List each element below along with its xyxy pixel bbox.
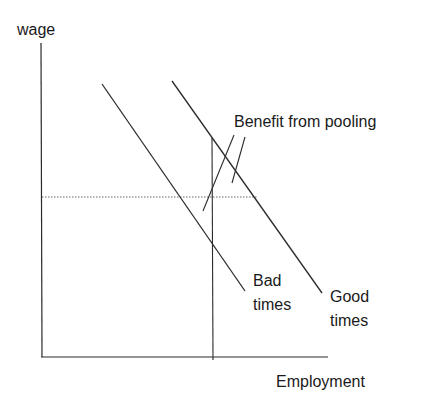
good-times-label-line1: Good (330, 287, 369, 306)
good-times-label-line2: times (330, 311, 368, 330)
bad-times-curve (102, 84, 245, 291)
bad-times-label-line1: Bad (253, 271, 281, 290)
annotation-label: Benefit from pooling (234, 112, 376, 131)
x-axis-label: Employment (276, 372, 365, 391)
diagram-canvas (0, 0, 424, 406)
bad-times-label-line2: times (253, 295, 291, 314)
employment-reference-line (212, 138, 213, 360)
y-axis-label: wage (17, 20, 55, 39)
y-axis (41, 43, 42, 357)
